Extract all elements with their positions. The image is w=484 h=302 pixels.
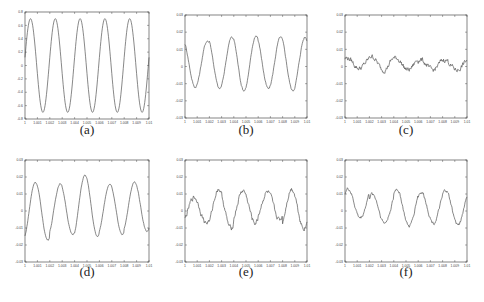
x-tick-label: 1.001 <box>353 264 362 268</box>
y-tick-label: 0.03 <box>336 158 343 162</box>
y-tick-label: -0.03 <box>335 260 343 264</box>
x-tick-label: 1 <box>344 264 346 268</box>
subplot-f: 0.030.020.010-0.01-0.02-0.0311.0011.0021… <box>0 0 484 302</box>
y-tick-label: 0.01 <box>336 192 343 196</box>
y-tick-label: -0.01 <box>335 226 343 230</box>
x-tick-label: 1.01 <box>464 264 471 268</box>
series-line <box>345 188 467 228</box>
x-tick-label: 1.002 <box>365 264 374 268</box>
x-tick-label: 1.007 <box>426 264 435 268</box>
x-tick-label: 1.009 <box>451 264 460 268</box>
x-tick-label: 1.003 <box>377 264 386 268</box>
x-tick-label: 1.008 <box>438 264 447 268</box>
y-tick-label: 0.02 <box>336 175 343 179</box>
y-tick-label: -0.02 <box>335 243 343 247</box>
axes-box <box>345 160 467 262</box>
subplot-caption: (f) <box>386 264 426 280</box>
plot-f: 0.030.020.010-0.01-0.02-0.0311.0011.0021… <box>0 0 484 302</box>
y-tick-label: 0 <box>341 209 343 213</box>
